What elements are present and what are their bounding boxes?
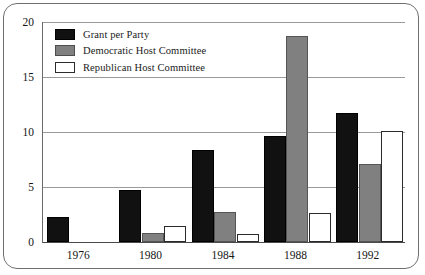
bar xyxy=(142,233,164,242)
legend-item-label: Republican Host Committee xyxy=(83,62,205,73)
black-swatch-icon xyxy=(55,29,75,40)
x-tick-label: 1988 xyxy=(284,249,307,261)
bar xyxy=(359,164,381,242)
legend-item: Grant per Party xyxy=(55,27,206,41)
bar xyxy=(309,213,331,242)
bar xyxy=(381,131,403,242)
bar xyxy=(286,36,308,242)
bar xyxy=(164,226,186,243)
x-tick-label: 1992 xyxy=(356,249,379,261)
legend-item: Democratic Host Committee xyxy=(55,44,206,58)
x-tick-label: 1980 xyxy=(139,249,162,261)
y-tick-label: 0 xyxy=(0,236,34,248)
gray-swatch-icon xyxy=(55,45,75,56)
y-tick-label: 10 xyxy=(0,126,34,138)
legend-item: Republican Host Committee xyxy=(55,60,206,74)
bar xyxy=(119,190,141,242)
y-axis: 05101520 xyxy=(0,22,38,243)
x-tick-label: 1976 xyxy=(67,249,90,261)
bar xyxy=(192,150,214,242)
legend-item-label: Democratic Host Committee xyxy=(83,45,206,56)
bar xyxy=(264,136,286,242)
bar xyxy=(214,212,236,242)
bar xyxy=(237,234,259,242)
y-tick-label: 20 xyxy=(0,16,34,28)
legend-item-label: Grant per Party xyxy=(83,29,149,40)
x-tick-label: 1984 xyxy=(212,249,235,261)
y-tick-label: 5 xyxy=(0,181,34,193)
bar-chart-figure: 05101520 19761980198419881992 Grant per … xyxy=(0,0,425,275)
x-axis: 19761980198419881992 xyxy=(42,246,405,268)
bar xyxy=(47,217,69,242)
bar xyxy=(336,113,358,242)
gridline xyxy=(43,22,405,23)
y-tick-label: 15 xyxy=(0,71,34,83)
chart-legend: Grant per PartyDemocratic Host Committee… xyxy=(52,25,210,80)
white-swatch-icon xyxy=(55,62,75,73)
